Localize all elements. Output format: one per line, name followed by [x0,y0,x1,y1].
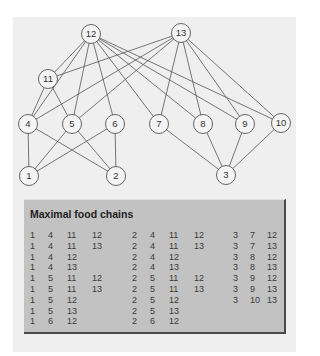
chain-species: 12 [267,252,277,262]
node-label: 9 [242,118,247,129]
chain-species: 4 [48,230,53,240]
chain-species: 1 [30,230,35,240]
chain-species: 13 [92,241,102,251]
chain-species: 6 [48,316,53,326]
chain-species: 7 [250,230,255,240]
chain-species: 5 [150,295,155,305]
edge-12-9 [91,34,245,124]
chain-species: 4 [150,230,155,240]
chain-species: 5 [48,273,53,283]
chain-species: 11 [169,284,178,294]
node-9: 9 [236,115,255,134]
chain-species: 2 [132,273,137,283]
chain-species: 13 [92,284,102,294]
chain-species: 1 [30,316,35,326]
node-3: 3 [217,166,236,185]
chain-species: 4 [48,252,53,262]
chain-species: 1 [30,262,35,272]
edge-12-10 [91,34,281,123]
chain-species: 3 [233,241,238,251]
chain-species: 12 [169,316,179,326]
maximal-food-chains-panel: Maximal food chains 14111214111314121413… [24,199,286,334]
chain-species: 1 [30,273,35,283]
chain-species: 13 [169,306,179,316]
chain-species: 3 [233,273,238,283]
chain-species: 13 [194,241,204,251]
chain-species: 4 [150,262,155,272]
chain-species: 13 [267,241,277,251]
node-5: 5 [63,115,82,134]
chain-species: 3 [233,284,238,294]
chain-species: 1 [30,241,35,251]
node-label: 5 [69,118,74,129]
edge-5-1 [29,124,72,176]
edge-13-7 [159,33,181,124]
chain-species: 11 [67,230,76,240]
chain-species: 1 [30,252,35,262]
chain-species: 1 [30,284,35,294]
chain-species: 12 [169,252,179,262]
edge-13-9 [181,33,245,124]
chain-species: 5 [48,295,53,305]
chain-species: 13 [67,262,77,272]
chain-species: 3 [233,295,238,305]
chain-species: 5 [150,273,155,283]
chain-species: 4 [150,241,155,251]
node-8: 8 [194,115,213,134]
chain-species: 7 [250,241,255,251]
chain-species: 11 [67,273,76,283]
chain-species: 13 [169,262,179,272]
chain-species: 12 [267,273,277,283]
chain-species: 8 [250,252,255,262]
node-6: 6 [106,115,125,134]
chain-species: 2 [132,295,137,305]
node-7: 7 [150,115,169,134]
chain-species: 2 [132,252,137,262]
edge-13-10 [181,33,281,123]
chain-species: 12 [67,295,77,305]
chain-species: 11 [67,241,76,251]
node-12: 12 [82,25,101,44]
node-label: 7 [156,118,161,129]
node-11: 11 [39,70,58,89]
chain-species: 13 [267,284,277,294]
chain-species: 2 [132,284,137,294]
chain-species: 13 [67,306,77,316]
chain-species: 12 [92,273,102,283]
chain-species: 11 [169,273,178,283]
node-label: 8 [200,118,205,129]
chain-species: 12 [267,230,277,240]
chain-species: 12 [92,230,102,240]
node-label: 11 [43,73,53,84]
node-1: 1 [20,167,39,186]
chain-species: 2 [132,262,137,272]
chain-species: 3 [233,230,238,240]
chain-species: 5 [150,284,155,294]
node-label: 2 [113,170,118,181]
chain-species: 9 [250,273,255,283]
chain-species: 5 [48,284,53,294]
node-label: 10 [276,117,287,128]
chain-species: 2 [132,306,137,316]
chain-species: 12 [67,316,77,326]
chain-species: 1 [30,295,35,305]
chain-species: 5 [150,306,155,316]
chain-species: 3 [233,252,238,262]
node-label: 13 [176,27,187,38]
chain-species: 13 [267,295,277,305]
chain-species: 11 [67,284,76,294]
node-2: 2 [107,167,126,186]
node-label: 4 [25,118,30,129]
edge-13-8 [181,33,203,124]
chain-species: 4 [150,252,155,262]
chain-species: 5 [48,306,53,316]
chain-species: 12 [194,273,204,283]
chain-species: 9 [250,284,255,294]
chain-species: 1 [30,306,35,316]
chain-species: 8 [250,262,255,272]
chain-species: 4 [48,262,53,272]
chain-species: 11 [169,241,178,251]
chain-species: 2 [132,316,137,326]
chain-species: 12 [169,295,179,305]
node-label: 3 [223,169,228,180]
